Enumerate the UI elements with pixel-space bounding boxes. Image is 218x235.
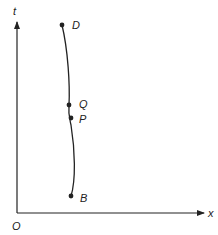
point-d-label: D xyxy=(72,19,80,31)
point-q-label: Q xyxy=(79,98,88,110)
diagram-canvas: t x O D Q P B xyxy=(0,0,218,235)
x-axis-label: x xyxy=(207,207,214,219)
t-axis-label: t xyxy=(13,5,17,17)
point-q xyxy=(67,103,72,108)
point-b xyxy=(69,194,74,199)
origin-label: O xyxy=(12,220,21,232)
point-d xyxy=(60,23,65,28)
worldline-curve xyxy=(62,25,74,196)
point-b-label: B xyxy=(80,192,87,204)
point-p-label: P xyxy=(79,113,87,125)
point-p xyxy=(69,116,74,121)
worldline-diagram: t x O D Q P B xyxy=(0,0,218,235)
